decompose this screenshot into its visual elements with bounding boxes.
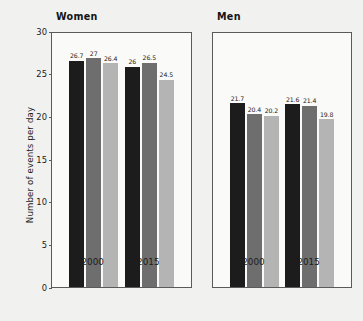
bar-women-2015-series1 xyxy=(125,67,140,287)
panel-title-women: Women xyxy=(56,11,98,22)
x-axis-tick-label-women-2015: 2015 xyxy=(128,257,168,267)
y-axis-tick-label: 25 xyxy=(36,69,47,79)
chart-figure: Number of events per day 051015202530 Wo… xyxy=(0,0,363,321)
bar-women-2015-series2 xyxy=(142,63,157,287)
plot-area-men: 21.720.420.221.621.419.8 xyxy=(213,33,351,287)
x-axis-tick-label-men-2000: 2000 xyxy=(233,257,273,267)
panel-men: Men 21.720.420.221.621.419.8 xyxy=(212,32,352,288)
x-axis-tick-label-women-2000: 2000 xyxy=(73,257,113,267)
bar-value-label: 24.5 xyxy=(153,71,180,78)
bar-women-2000-series2 xyxy=(86,58,101,287)
bar-value-label: 21.4 xyxy=(296,97,323,104)
bar-value-label: 19.8 xyxy=(313,111,340,118)
bar-value-label: 21.7 xyxy=(224,95,251,102)
y-axis-tick-label: 20 xyxy=(36,112,47,122)
y-axis-tick-label: 30 xyxy=(36,27,47,37)
y-axis-tick-label: 0 xyxy=(42,283,47,293)
y-axis-tick-label: 10 xyxy=(36,197,47,207)
y-axis: 051015202530 xyxy=(0,0,52,321)
panel-title-men: Men xyxy=(217,11,241,22)
bar-women-2000-series1 xyxy=(69,61,84,287)
plot-area-women: 26.72726.42626.524.5 xyxy=(52,33,191,287)
bar-women-2000-series3 xyxy=(103,63,118,287)
panel-women: Women 26.72726.42626.524.5 xyxy=(51,32,192,288)
y-axis-tick-label: 5 xyxy=(42,240,47,250)
x-axis-tick-label-men-2015: 2015 xyxy=(289,257,329,267)
bar-value-label: 20.2 xyxy=(258,107,285,114)
y-axis-tick-label: 15 xyxy=(36,155,47,165)
bar-women-2015-series3 xyxy=(159,80,174,287)
bar-value-label: 26.5 xyxy=(136,54,163,61)
